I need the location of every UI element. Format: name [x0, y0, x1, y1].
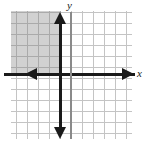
vertical-boundary-line	[59, 22, 62, 132]
x-axis-right-arrow-icon	[122, 68, 134, 80]
y-axis-line	[70, 12, 72, 139]
coordinate-plane-figure: y x	[0, 0, 147, 146]
boundary-up-arrow-icon	[54, 12, 66, 24]
boundary-down-arrow-icon	[54, 127, 66, 139]
x-axis-label: x	[137, 68, 142, 79]
x-axis-left-arrow-icon	[25, 68, 37, 80]
y-axis-label: y	[67, 0, 72, 11]
